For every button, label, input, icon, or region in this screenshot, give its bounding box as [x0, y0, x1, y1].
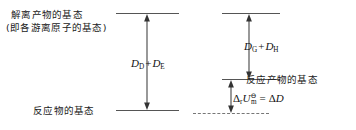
equals-sign: =	[257, 92, 269, 104]
left-arrow-formula: DD+DE	[131, 57, 165, 69]
left-formula-sub1: D	[139, 63, 144, 71]
left-bottom-level-label: 反应物的基态	[33, 104, 95, 117]
energy-level-diagram: 解离产物的基态 (即各游离原子的基态) 反应物的基态 DD+DE 反应产物的基态…	[0, 0, 356, 130]
delta-d-symbol: D	[276, 92, 284, 104]
right-upper-sub1: G	[252, 46, 257, 54]
left-top-level-label-line2: (即各游离原子的基态)	[6, 21, 107, 34]
right-upper-symbol1: D	[244, 40, 252, 52]
right-lower-arrow-formula: ΔrU⊖m=ΔD	[233, 92, 284, 104]
right-middle-level-label: 反应产物的基态	[246, 73, 318, 86]
right-upper-arrow-formula: DG+DH	[244, 40, 279, 52]
left-formula-sub2: E	[160, 63, 164, 71]
delta-d-delta: Δ	[269, 92, 276, 104]
u-subscript-m: m	[251, 98, 257, 106]
left-formula-symbol1: D	[131, 57, 139, 69]
right-upper-sub2: H	[273, 46, 278, 54]
left-top-level-label-line1: 解离产物的基态	[11, 8, 83, 21]
